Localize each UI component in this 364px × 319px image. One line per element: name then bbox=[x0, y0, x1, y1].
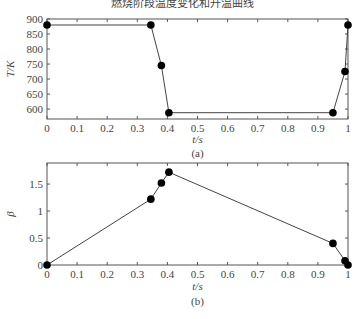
data-point-marker bbox=[158, 62, 166, 70]
x-tick-label: 1 bbox=[345, 122, 351, 134]
y-tick-label: 1 bbox=[38, 205, 44, 217]
data-point-marker bbox=[147, 195, 155, 203]
y-tick-label: 650 bbox=[27, 88, 44, 100]
data-line bbox=[47, 172, 348, 265]
data-point-marker bbox=[165, 109, 173, 117]
y-tick-label: 0 bbox=[38, 259, 44, 271]
panel-label: (a) bbox=[191, 147, 204, 160]
panel-label: (b) bbox=[191, 295, 204, 308]
x-tick-label: 0.8 bbox=[281, 268, 295, 280]
x-tick-label: 0.3 bbox=[130, 122, 144, 134]
x-tick-label: 0.6 bbox=[221, 268, 235, 280]
data-point-marker bbox=[43, 261, 51, 269]
x-tick-label: 0.4 bbox=[161, 268, 175, 280]
data-point-marker bbox=[329, 240, 337, 248]
data-point-marker bbox=[329, 109, 337, 117]
x-tick-label: 0.8 bbox=[281, 122, 295, 134]
data-point-marker bbox=[158, 179, 166, 187]
y-tick-label: 850 bbox=[27, 28, 44, 40]
x-tick-label: 0.5 bbox=[191, 268, 205, 280]
x-tick-label: 0.1 bbox=[70, 268, 84, 280]
plot-frame bbox=[47, 163, 348, 265]
y-tick-label: 750 bbox=[27, 58, 44, 70]
y-tick-label: 700 bbox=[27, 73, 44, 85]
x-tick-label: 0.7 bbox=[251, 122, 265, 134]
data-line bbox=[47, 25, 348, 113]
y-tick-label: 800 bbox=[27, 43, 44, 55]
x-tick-label: 1 bbox=[345, 268, 351, 280]
plot-frame bbox=[47, 19, 348, 119]
data-point-marker bbox=[344, 21, 352, 29]
y-tick-label: 900 bbox=[27, 13, 44, 25]
x-axis-label: t/s bbox=[192, 133, 202, 145]
x-tick-label: 0 bbox=[44, 268, 50, 280]
x-axis-label: t/s bbox=[192, 280, 202, 292]
figure-canvas: 00.10.20.30.40.50.60.70.80.9160065070075… bbox=[0, 0, 364, 319]
x-tick-label: 0.6 bbox=[221, 122, 235, 134]
x-tick-label: 0.2 bbox=[100, 268, 114, 280]
data-point-marker bbox=[165, 168, 173, 176]
x-tick-label: 0.9 bbox=[311, 268, 325, 280]
y-axis-label: T/K bbox=[4, 60, 16, 77]
x-tick-label: 0.9 bbox=[311, 122, 325, 134]
chart-panel-b: 00.10.20.30.40.50.60.70.80.9100.511.5t/s… bbox=[4, 163, 352, 308]
y-tick-label: 1.5 bbox=[29, 178, 43, 190]
chart-panel-a: 00.10.20.30.40.50.60.70.80.9160065070075… bbox=[4, 13, 352, 160]
data-point-marker bbox=[43, 21, 51, 29]
x-tick-label: 0 bbox=[44, 122, 50, 134]
data-point-marker bbox=[341, 68, 349, 76]
x-tick-label: 0.7 bbox=[251, 268, 265, 280]
y-tick-label: 600 bbox=[27, 103, 44, 115]
data-point-marker bbox=[147, 21, 155, 29]
data-point-marker bbox=[344, 261, 352, 269]
x-tick-label: 0.3 bbox=[130, 268, 144, 280]
y-tick-label: 0.5 bbox=[29, 232, 43, 244]
x-tick-label: 0.1 bbox=[70, 122, 84, 134]
y-axis-label: β bbox=[4, 211, 16, 218]
x-tick-label: 0.4 bbox=[161, 122, 175, 134]
x-tick-label: 0.2 bbox=[100, 122, 114, 134]
